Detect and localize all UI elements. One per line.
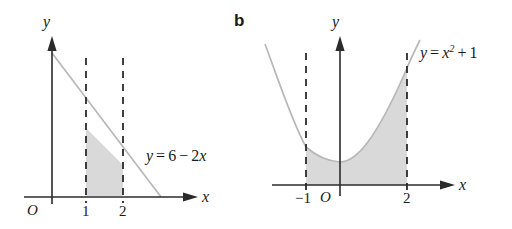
panel-label-b: b — [234, 12, 244, 29]
right-x-axis-arrowhead — [440, 180, 455, 189]
right-shaded-region — [306, 68, 407, 185]
right-eq-plus: + — [457, 44, 466, 61]
right-eq-sign: = — [430, 44, 439, 61]
right-equation-label: y=x2+1 — [420, 44, 477, 61]
right-origin-label: O — [320, 190, 331, 205]
right-eq-exponent: 2 — [449, 43, 454, 54]
right-chart-panel: b y x O −1 2 y=x2+1 — [0, 0, 512, 229]
right-y-axis-label: y — [332, 14, 339, 30]
right-y-axis-arrowhead — [335, 36, 344, 51]
right-xtick-label-neg1: −1 — [295, 191, 311, 206]
right-eq-constant: 1 — [469, 44, 477, 61]
right-eq-lhs: y — [420, 44, 427, 61]
right-chart-graphic — [0, 0, 512, 229]
right-x-axis-label: x — [459, 177, 466, 193]
right-xtick-label-2: 2 — [403, 191, 411, 206]
figure-container: y x O 1 2 y=6−2x b y x — [0, 0, 512, 229]
